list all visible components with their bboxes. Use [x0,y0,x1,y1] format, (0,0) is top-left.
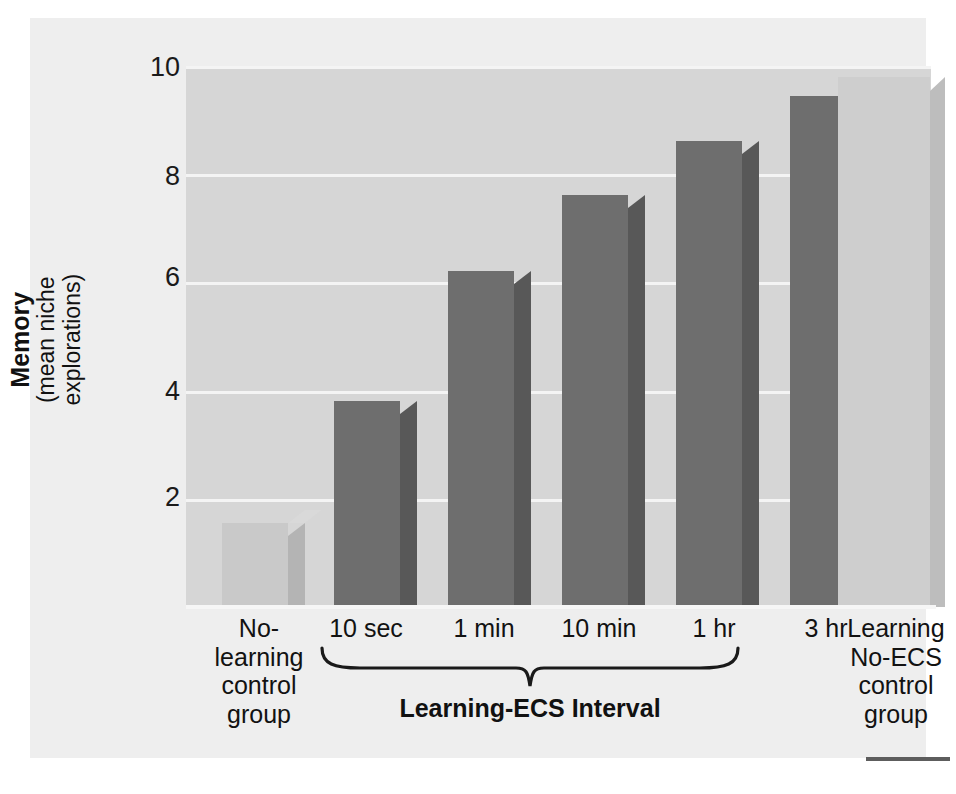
figure-container: Memory (mean niche explorations) 10 8 6 … [0,0,956,794]
bar-learning-no-ecs-control[interactable] [838,77,930,607]
bar-side [628,195,645,607]
bar-1-hr[interactable] [676,141,742,607]
brace-icon [320,646,740,690]
y-axis-title: Memory (mean niche explorations) [6,210,86,470]
x-label-learning-no-ecs-control: Learning No-ECS control group [826,614,956,728]
bar-top [288,510,322,523]
x-label-line: control [826,671,956,700]
x-axis-baseline [186,605,936,609]
bar-face [838,77,930,607]
x-label-no-learning-control: No- learning control group [198,614,320,728]
x-label-line: Learning [826,614,956,643]
y-tick-10: 10 [134,54,180,81]
x-label-line: 1 hr [664,614,764,643]
bar-side [288,523,305,607]
y-axis-ticks: 10 8 6 4 2 [120,0,180,680]
bar-face [334,401,400,607]
x-label-1-hr: 1 hr [664,614,764,643]
x-label-1-min: 1 min [434,614,534,643]
x-label-line: control [198,671,320,700]
plot-area [186,66,931,607]
x-label-line: No- [198,614,320,643]
bar-side [514,271,531,607]
x-label-line: No-ECS [826,643,956,672]
x-label-line: 10 sec [316,614,416,643]
bar-no-learning-control[interactable] [222,523,288,607]
x-label-line: group [198,700,320,729]
gridline-10 [186,66,931,69]
x-label-line: 1 min [434,614,534,643]
x-label-line: group [826,700,956,729]
x-label-10-min: 10 min [544,614,654,643]
y-axis-title-sub: (mean niche explorations) [34,210,86,470]
interval-brace [320,646,740,690]
bar-side [742,141,759,607]
bar-face [222,523,288,607]
x-label-10-sec: 10 sec [316,614,416,643]
y-tick-8: 8 [134,163,180,190]
y-axis-title-main: Memory [6,210,34,470]
x-label-line: learning [198,643,320,672]
x-label-line: 10 min [544,614,654,643]
y-tick-2: 2 [134,484,180,511]
y-tick-6: 6 [134,264,180,291]
page-corner-rule [866,757,950,761]
bar-side [400,401,417,607]
bar-10-sec[interactable] [334,401,400,607]
y-tick-4: 4 [134,378,180,405]
bar-10-min[interactable] [562,195,628,607]
bar-face [562,195,628,607]
bar-1-min[interactable] [448,271,514,607]
bar-face [448,271,514,607]
interval-group-label: Learning-ECS Interval [330,694,730,723]
bar-side [930,77,945,607]
bar-face [676,141,742,607]
